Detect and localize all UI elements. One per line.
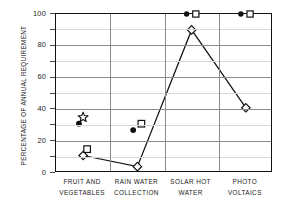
data-point-open-square [247, 11, 253, 17]
y-axis-tick-mark [50, 172, 55, 173]
gridline-major [56, 77, 271, 78]
category-label-line: VEGETABLES [55, 188, 109, 199]
gridline-minor [56, 157, 271, 158]
gridline-minor [56, 93, 271, 94]
category-separator [219, 14, 220, 171]
y-axis-tick-label: 80 [22, 40, 46, 49]
category-label-line: WATER [164, 188, 218, 199]
plot-area [55, 13, 272, 172]
y-axis-tick-label: 100 [22, 9, 46, 18]
gridline-major [56, 45, 271, 46]
y-axis-tick-label: 60 [22, 72, 46, 81]
data-point-open-square [193, 11, 199, 17]
x-axis-category-label: FRUIT ANDVEGETABLES [55, 177, 109, 198]
gridline-minor [56, 61, 271, 62]
data-point-open-square [138, 120, 145, 127]
category-label-line: COLLECTION [109, 188, 163, 199]
data-point-filled-circle [130, 127, 136, 133]
gridline-minor [56, 125, 271, 126]
x-axis-category-label: SOLAR HOTWATER [164, 177, 218, 198]
data-point-open-diamond [133, 162, 141, 170]
data-point-filled-circle [184, 11, 189, 16]
y-axis-title: PERCENTAGE OF ANNUAL REQUIREMENT [20, 11, 27, 181]
gridline-major [56, 141, 271, 142]
category-separator [110, 14, 111, 171]
category-label-line: VOLTAICS [218, 188, 272, 199]
y-axis-tick-label: 40 [22, 104, 46, 113]
y-axis-tick-label: 20 [22, 136, 46, 145]
data-point-open-diamond [242, 104, 250, 112]
gridline-minor [56, 29, 271, 30]
category-label-line: RAIN WATER [109, 177, 163, 188]
data-point-open-square [84, 146, 91, 153]
x-axis-category-label: PHOTOVOLTAICS [218, 177, 272, 198]
data-point-filled-circle [238, 11, 243, 16]
category-label-line: FRUIT AND [55, 177, 109, 188]
category-label-line: SOLAR HOT [164, 177, 218, 188]
y-axis-tick-label: 0 [22, 168, 46, 177]
data-point-open-star [78, 112, 88, 121]
category-separator [165, 14, 166, 171]
x-axis-category-label: RAIN WATERCOLLECTION [109, 177, 163, 198]
category-label-line: PHOTO [218, 177, 272, 188]
chart-container: PERCENTAGE OF ANNUAL REQUIREMENT 1008060… [0, 0, 284, 216]
gridline-major [56, 109, 271, 110]
